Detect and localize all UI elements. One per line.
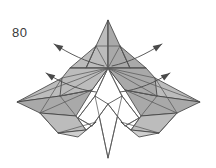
origami-figure [0,0,216,168]
origami-diagram-page: 80 [0,0,216,168]
arrow-upper-left-head [52,41,63,51]
arrow-lower-right-head [161,70,172,80]
arrow-lower-left-head [44,70,55,80]
paper-facets-layer [17,20,200,158]
arrow-upper-right-head [153,41,164,51]
